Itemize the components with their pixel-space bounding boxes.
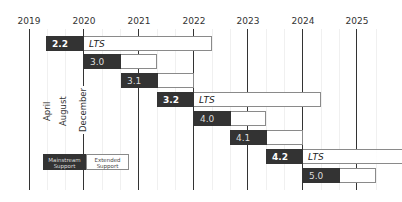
bar-2.2-mainstream: 2.2	[46, 36, 84, 51]
version-label-4.1: 4.1	[236, 132, 250, 144]
grid-line	[157, 29, 158, 190]
bar-4.0-extended	[229, 111, 266, 126]
bar-3.1-mainstream: 3.1	[121, 73, 158, 88]
grid-line	[321, 29, 322, 190]
lts-label: LTS	[308, 151, 324, 163]
bar-4.2-extended: LTS	[302, 149, 402, 164]
year-line-2019	[29, 29, 30, 190]
bar-4.1-mainstream: 4.1	[230, 130, 267, 145]
grid-line	[266, 29, 267, 190]
lts-label: LTS	[89, 38, 105, 50]
legend-mainstream-support: Mainstream Support	[43, 154, 86, 170]
version-label-3.1: 3.1	[127, 75, 141, 87]
legend-mainstream-line2: Support	[44, 163, 85, 170]
grid-line	[284, 29, 285, 190]
bar-3.0-mainstream: 3.0	[84, 54, 121, 69]
year-label-2025: 2025	[346, 16, 369, 26]
bar-2.2-extended: LTS	[83, 36, 212, 51]
year-line-2024	[302, 29, 303, 190]
year-line-2023	[247, 29, 248, 190]
legend-extended-support: Extended Support	[86, 154, 129, 170]
version-label-3.0: 3.0	[90, 56, 104, 68]
bar-4.2-mainstream: 4.2	[266, 149, 303, 164]
bar-3.2-mainstream: 3.2	[157, 92, 194, 107]
bar-3.0-extended	[120, 54, 157, 69]
bar-3.2-extended: LTS	[193, 92, 321, 107]
bar-4.1-extended	[265, 130, 303, 145]
lts-label: LTS	[199, 94, 215, 106]
bar-5.0-mainstream: 5.0	[303, 168, 340, 183]
year-label-2022: 2022	[183, 16, 206, 26]
version-label-3.2: 3.2	[163, 94, 179, 106]
year-label-2020: 2020	[73, 16, 96, 26]
month-label-april: April	[42, 102, 52, 121]
version-label-4.2: 4.2	[272, 151, 288, 163]
version-label-4.0: 4.0	[200, 113, 214, 125]
month-label-august: August	[58, 96, 68, 126]
bar-3.1-extended	[156, 73, 194, 88]
year-line-2022	[193, 29, 194, 190]
month-label-december: December	[78, 86, 88, 134]
grid-line	[212, 29, 213, 190]
bar-5.0-extended	[338, 168, 376, 183]
year-label-2024: 2024	[292, 16, 315, 26]
year-label-2021: 2021	[128, 16, 151, 26]
year-line-2025	[356, 29, 357, 190]
legend: Mainstream Support Extended Support	[43, 154, 129, 170]
grid-line	[175, 29, 176, 190]
bar-4.0-mainstream: 4.0	[194, 111, 231, 126]
grid-line	[339, 29, 340, 190]
year-label-2023: 2023	[237, 16, 260, 26]
version-label-2.2: 2.2	[52, 38, 68, 50]
grid-line	[230, 29, 231, 190]
grid-line	[376, 29, 377, 190]
legend-extended-line2: Support	[87, 163, 128, 170]
version-label-5.0: 5.0	[309, 170, 323, 182]
year-label-2019: 2019	[18, 16, 41, 26]
